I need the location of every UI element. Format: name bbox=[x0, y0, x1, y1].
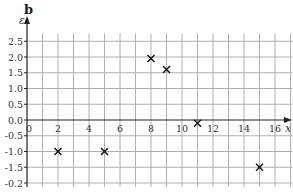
y-tick-label: 1.5 bbox=[8, 67, 23, 78]
x-tick-label: 6 bbox=[117, 123, 123, 134]
y-tick-label: -1.5 bbox=[5, 162, 23, 173]
x-tick-label: 16 bbox=[269, 123, 281, 134]
x-tick-label: 8 bbox=[148, 123, 154, 134]
y-tick-labels: 2.52.01.51.00.50.0-0.5-1.0-1.5-0.2 bbox=[5, 36, 27, 189]
x-tick-label: 12 bbox=[207, 123, 219, 134]
x-tick-label: 2 bbox=[55, 123, 61, 134]
x-tick-label: 10 bbox=[176, 123, 188, 134]
x-tick-label: 4 bbox=[86, 123, 92, 134]
y-tick-label: 1.0 bbox=[8, 83, 23, 94]
y-tick-label: 2.0 bbox=[8, 52, 23, 63]
y-tick-label: 2.5 bbox=[8, 36, 23, 47]
x-tick-labels: 0246810121416 bbox=[26, 123, 281, 134]
x-tick-label: 14 bbox=[238, 123, 250, 134]
y-tick-label: -0.2 bbox=[5, 178, 23, 189]
grid-lines bbox=[27, 33, 293, 187]
y-tick-label: -0.5 bbox=[5, 130, 23, 141]
y-tick-label: -1.0 bbox=[5, 146, 23, 157]
y-tick-label: 0.0 bbox=[8, 115, 23, 126]
y-axis-label: ε bbox=[19, 14, 25, 27]
x-tick-label: 0 bbox=[26, 123, 32, 134]
x-axis-label: x bbox=[285, 122, 292, 135]
y-tick-label: 0.5 bbox=[8, 99, 23, 110]
scatter-chart: 2.52.01.51.00.50.0-0.5-1.0-1.5-0.2 02468… bbox=[0, 0, 293, 193]
